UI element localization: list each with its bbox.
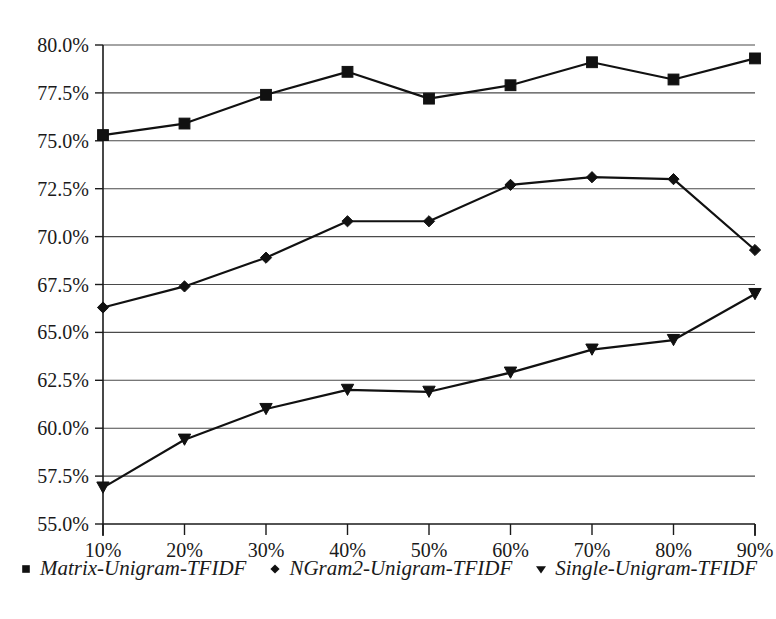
y-axis-tick-label: 80.0% [37, 34, 89, 56]
legend-entry: Single-Unigram-TFIDF [534, 556, 757, 581]
legend-entry: NGram2-Unigram-TFIDF [268, 556, 512, 581]
data-point-marker-square [98, 130, 109, 141]
line-chart: 55.0%57.5%60.0%62.5%65.0%67.5%70.0%72.5%… [0, 0, 776, 619]
y-axis-tick-label: 75.0% [37, 130, 89, 152]
data-point-marker-square [261, 89, 272, 100]
legend-marker-square-icon [19, 562, 33, 576]
y-axis-tick-label: 77.5% [37, 82, 89, 104]
y-axis-tick-label: 60.0% [37, 417, 89, 439]
y-axis-tick-label: 70.0% [37, 226, 89, 248]
data-point-marker-square [587, 57, 598, 68]
legend-label: Single-Unigram-TFIDF [555, 556, 757, 581]
y-axis-tick-label: 62.5% [37, 369, 89, 391]
chart-plot-area: 55.0%57.5%60.0%62.5%65.0%67.5%70.0%72.5%… [0, 0, 776, 619]
data-point-marker-square [505, 80, 516, 91]
data-point-marker-diamond [260, 252, 271, 263]
data-point-marker-diamond [423, 216, 434, 227]
data-point-marker-diamond [342, 216, 353, 227]
legend-marker-diamond-icon [268, 562, 282, 576]
y-axis-tick-label: 67.5% [37, 274, 89, 296]
data-point-marker-square [179, 118, 190, 129]
legend-label: Matrix-Unigram-TFIDF [40, 556, 246, 581]
data-point-marker-square [668, 74, 679, 85]
data-point-marker-diamond [97, 302, 108, 313]
y-axis-tick-label: 55.0% [37, 513, 89, 535]
data-point-marker-triangle-down [178, 434, 190, 445]
legend-entry: Matrix-Unigram-TFIDF [19, 556, 246, 581]
data-point-marker-diamond [179, 281, 190, 292]
y-axis-tick-label: 72.5% [37, 178, 89, 200]
data-point-marker-triangle-down [97, 482, 109, 493]
legend-label: NGram2-Unigram-TFIDF [289, 556, 512, 581]
data-point-marker-triangle-down [749, 288, 761, 299]
y-axis-tick-label: 65.0% [37, 321, 89, 343]
legend-marker-triangle-down-icon [534, 562, 548, 576]
data-point-marker-square [424, 93, 435, 104]
chart-legend: Matrix-Unigram-TFIDFNGram2-Unigram-TFIDF… [0, 556, 776, 581]
data-point-marker-square [750, 53, 761, 64]
data-point-marker-square [342, 66, 353, 77]
data-point-marker-diamond [586, 172, 597, 183]
y-axis-tick-label: 57.5% [37, 465, 89, 487]
series-line [103, 177, 755, 307]
